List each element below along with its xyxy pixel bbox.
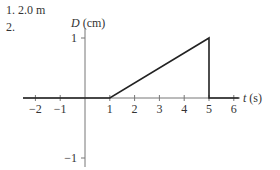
x-tick-label: 4 — [181, 102, 187, 116]
y-axis-label: D (cm) — [70, 16, 105, 30]
x-tick-label: 5 — [206, 102, 212, 116]
x-axis-label: t (s) — [243, 91, 262, 105]
y-tick-label: −1 — [64, 151, 77, 165]
x-tick-label: 6 — [231, 102, 237, 116]
x-tick-label: −2 — [29, 102, 42, 116]
x-tick-label: 3 — [156, 102, 162, 116]
y-tick-label: 1 — [71, 31, 77, 45]
x-tick-label: 2 — [132, 102, 138, 116]
displacement-time-chart: −2−11234561−1D (cm)t (s) — [0, 0, 280, 170]
x-tick-label: 1 — [107, 102, 113, 116]
data-line — [23, 38, 239, 98]
x-tick-label: −1 — [54, 102, 67, 116]
